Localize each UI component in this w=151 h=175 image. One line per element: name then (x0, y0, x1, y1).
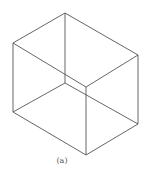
cube-edge-bottom_left-bottom_back (13, 83, 65, 112)
cube-edge-top_back-top_left (13, 13, 65, 43)
cube-edge-top_front-top_right (86, 55, 138, 87)
wireframe-cube-diagram (0, 0, 151, 175)
cube-edge-bottom_front-bottom_right (86, 124, 138, 155)
cube-edge-top_left-top_front (13, 43, 86, 87)
cube-edge-bottom_left-bottom_front (13, 112, 86, 155)
cube-edge-top_right-top_back (65, 13, 138, 55)
figure-caption: (a) (0, 156, 124, 165)
cube-edge-bottom_back-bottom_right (65, 83, 138, 124)
